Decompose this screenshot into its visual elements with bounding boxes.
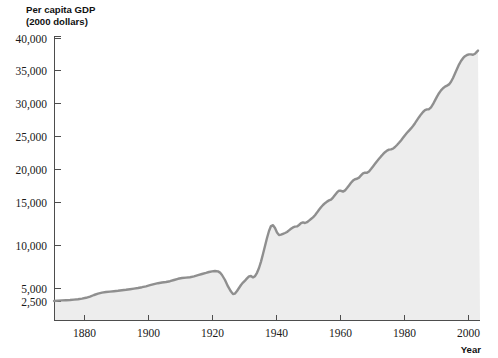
y-tick-label: 15,000 <box>15 197 47 210</box>
x-tick-label: 1920 <box>201 327 224 339</box>
x-tick-label: 1900 <box>137 327 160 339</box>
x-tick-label: 1880 <box>73 327 96 339</box>
y-tick-label: 2,500 <box>21 296 47 309</box>
y-axis-title-line2: (2000 dollars) <box>26 16 88 27</box>
x-tick-label: 1940 <box>265 327 288 339</box>
y-tick-label: 40,000 <box>15 33 47 46</box>
chart-figure: 2,5005,00010,00015,00020,00025,00030,000… <box>0 0 498 358</box>
y-tick-label: 35,000 <box>15 65 47 78</box>
y-tick-label: 20,000 <box>15 164 47 177</box>
y-tick-label: 30,000 <box>15 98 47 111</box>
gdp-area-chart: 2,5005,00010,00015,00020,00025,00030,000… <box>0 0 498 358</box>
y-axis-title-line1: Per capita GDP <box>26 4 96 15</box>
y-tick-label: 5,000 <box>21 283 47 296</box>
y-axis-ticks: 2,5005,00010,00015,00020,00025,00030,000… <box>15 33 60 309</box>
y-tick-label: 25,000 <box>15 131 47 144</box>
x-tick-label: 1980 <box>393 327 416 339</box>
x-axis-title: Year <box>461 344 482 355</box>
x-tick-label: 2000 <box>457 327 480 339</box>
x-tick-label: 1960 <box>329 327 352 339</box>
y-tick-label: 10,000 <box>15 240 47 253</box>
series-area-fill <box>54 51 480 320</box>
